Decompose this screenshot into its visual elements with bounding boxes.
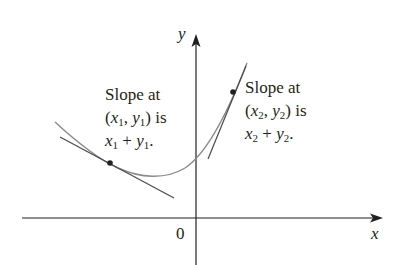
var-y: y — [132, 108, 140, 127]
point-1 — [107, 160, 113, 166]
annotation-left-line1: Slope at — [105, 85, 160, 105]
period: . — [289, 124, 293, 143]
annotation-right-line2: (x2, y2) is — [245, 101, 307, 121]
var-y: y — [136, 131, 144, 150]
plus: + — [258, 124, 276, 143]
origin-label: 0 — [176, 224, 185, 244]
comma: , — [124, 108, 133, 127]
comma: , — [264, 101, 273, 120]
annotation-right-line3: x2 + y2. — [245, 124, 293, 144]
plus: + — [118, 131, 136, 150]
paren-close-is: ) is — [285, 101, 306, 120]
annotation-left-line2: (x1, y1) is — [105, 108, 167, 128]
diagram-canvas — [0, 0, 402, 265]
annotation-right-line1: Slope at — [245, 78, 300, 98]
tangent-line-2 — [208, 66, 246, 159]
period: . — [149, 131, 153, 150]
var-y: y — [276, 124, 284, 143]
var-x: x — [245, 124, 253, 143]
x-axis-label: x — [371, 224, 379, 244]
var-x: x — [105, 131, 113, 150]
paren-close-is: ) is — [145, 108, 166, 127]
y-axis-label: y — [178, 24, 186, 44]
var-y: y — [272, 101, 280, 120]
point-2 — [230, 89, 236, 95]
annotation-left-line3: x1 + y1. — [105, 131, 153, 151]
